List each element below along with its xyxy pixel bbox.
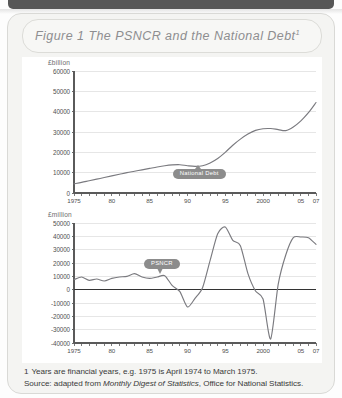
figure-card: Figure 1 The PSNCR and the National Debt… <box>7 13 335 394</box>
xtick-label: 07 <box>303 347 329 354</box>
chart-national-debt: £billion 6000050000400003000020000100000… <box>22 57 322 209</box>
xtick-label: 80 <box>99 197 125 204</box>
callout-national-debt-pointer <box>195 165 201 169</box>
figure-title-text: Figure 1 The PSNCR and the National Debt <box>35 30 296 44</box>
ytick-label: 20000 <box>28 149 70 156</box>
ytick-label: 30000 <box>28 129 70 136</box>
figure-title: Figure 1 The PSNCR and the National Debt… <box>23 28 300 43</box>
ytick-label: 20000 <box>28 260 70 267</box>
xtick-label: 95 <box>212 347 238 354</box>
ytick-label: 40000 <box>28 233 70 240</box>
xtick-label: 90 <box>174 197 200 204</box>
figure-footnote-marker: 1 <box>24 367 28 376</box>
ytick-label: 30000 <box>28 246 70 253</box>
ytick-label: 0 <box>28 286 70 293</box>
figure-footnote: 1Years are financial years, e.g. 1975 is… <box>24 366 324 378</box>
xtick-label: 1975 <box>61 347 87 354</box>
page-scan-band <box>8 0 334 9</box>
ytick-label: 0 <box>28 190 70 197</box>
xtick-label: 2000 <box>250 197 276 204</box>
figure-source-prefix: Source: adapted from <box>24 379 103 388</box>
xtick-label: 1975 <box>61 197 87 204</box>
xtick-label: 85 <box>137 347 163 354</box>
ytick-label: 60000 <box>28 68 70 75</box>
ytick-label: 40000 <box>28 108 70 115</box>
figure-title-superscript: 1 <box>296 28 301 37</box>
charts-panel: £billion 6000050000400003000020000100000… <box>22 57 322 363</box>
xtick-label: 85 <box>137 197 163 204</box>
figure-footnote-text: Years are financial years, e.g. 1975 is … <box>31 367 257 376</box>
ytick-label: 10000 <box>28 169 70 176</box>
figure-notes: 1Years are financial years, e.g. 1975 is… <box>24 366 324 389</box>
ytick-label: -10000 <box>28 300 70 307</box>
ytick-label: 10000 <box>28 273 70 280</box>
callout-national-debt: National Debt <box>173 169 226 179</box>
ytick-label: -30000 <box>28 326 70 333</box>
xtick-label: 07 <box>303 197 329 204</box>
figure-title-box: Figure 1 The PSNCR and the National Debt… <box>22 19 322 53</box>
figure-screenshot: Figure 1 The PSNCR and the National Debt… <box>0 0 342 398</box>
ytick-label: -40000 <box>28 340 70 347</box>
callout-psncr-pointer <box>157 268 163 274</box>
ytick-label: 50000 <box>28 88 70 95</box>
figure-source-publication: Monthly Digest of Statistics <box>103 379 199 388</box>
xtick-label: 95 <box>212 197 238 204</box>
figure-source-suffix: , Office for National Statistics. <box>199 379 303 388</box>
ytick-label: 50000 <box>28 220 70 227</box>
xtick-label: 90 <box>174 347 200 354</box>
xtick-label: 80 <box>99 347 125 354</box>
figure-source: Source: adapted from Monthly Digest of S… <box>24 378 324 390</box>
chart-psncr: £million 50000400003000020000100000-1000… <box>22 209 322 363</box>
ytick-label: -20000 <box>28 313 70 320</box>
xtick-label: 2000 <box>250 347 276 354</box>
